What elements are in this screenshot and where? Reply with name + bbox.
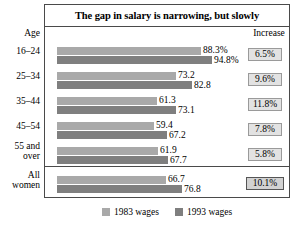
bar-value-1993-55-over: 67.7 — [170, 156, 187, 165]
increase-box-55-over: 5.8% — [248, 148, 282, 161]
bar-value-1993-all-women: 76.8 — [184, 185, 201, 194]
bar-value-1983-16-24: 88.3% — [203, 46, 228, 55]
bar-value-1993-16-24: 94.8% — [214, 56, 239, 65]
bar-value-1983-35-44: 61.3 — [159, 96, 176, 105]
bar-1993-25-34 — [57, 81, 192, 89]
bar-value-1993-25-34: 82.8 — [194, 81, 211, 90]
row-label-35-44: 35–44 — [0, 96, 40, 106]
bar-1993-all-women — [57, 185, 182, 193]
increase-box-25-34: 9.6% — [248, 73, 282, 86]
bar-value-1983-25-34: 73.2 — [178, 71, 195, 80]
bar-1983-16-24 — [57, 47, 201, 55]
increase-box-45-54: 7.8% — [248, 123, 282, 136]
bar-1993-45-54 — [57, 131, 167, 139]
all-women-divider — [45, 166, 289, 167]
increase-box-all-women: 10.1% — [246, 177, 284, 190]
increase-box-16-24: 6.5% — [248, 48, 282, 61]
row-label-all-women: All women — [0, 170, 40, 190]
legend-swatch-1993-icon — [175, 208, 183, 216]
bar-value-1993-45-54: 67.2 — [169, 131, 186, 140]
bar-value-1983-all-women: 66.7 — [168, 175, 185, 184]
bar-value-1983-45-54: 59.4 — [156, 121, 173, 130]
row-label-45-54: 45–54 — [0, 121, 40, 131]
legend-label-1993: 1993 wages — [187, 207, 232, 217]
bar-1983-45-54 — [57, 122, 154, 130]
row-label-16-24: 16–24 — [0, 46, 40, 56]
legend-item-1993: 1993 wages — [175, 207, 232, 217]
bar-value-1983-55-over: 61.9 — [160, 146, 177, 155]
legend-label-1983: 1983 wages — [114, 207, 159, 217]
bar-1983-25-34 — [57, 72, 176, 80]
legend-swatch-1983-icon — [102, 208, 110, 216]
row-label-25-34: 25–34 — [0, 71, 40, 81]
bar-1983-all-women — [57, 176, 166, 184]
bar-1993-35-44 — [57, 106, 176, 114]
salary-gap-chart: The gap in salary is narrowing, but slow… — [0, 0, 302, 227]
increase-box-35-44: 11.8% — [248, 98, 282, 111]
bar-value-1993-35-44: 73.1 — [178, 106, 195, 115]
bar-1993-16-24 — [57, 56, 212, 64]
bar-1983-35-44 — [57, 97, 157, 105]
chart-legend: 1983 wages 1993 wages — [44, 203, 290, 221]
bar-1983-55-over — [57, 147, 158, 155]
age-column-header: Age — [0, 26, 40, 40]
row-label-55-over: 55 and over — [0, 141, 40, 161]
bar-1993-55-over — [57, 156, 168, 164]
legend-item-1983: 1983 wages — [102, 207, 159, 217]
